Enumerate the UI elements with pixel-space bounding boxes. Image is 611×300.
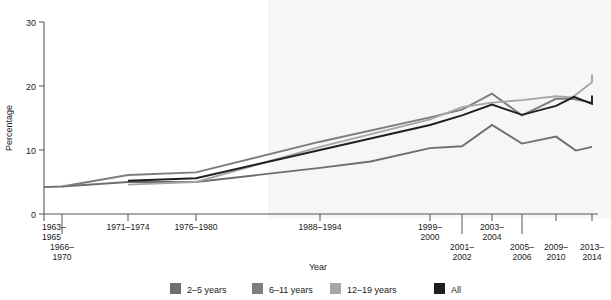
legend-label: All xyxy=(451,285,461,295)
x-tick-label: 1970 xyxy=(52,252,71,262)
x-tick-label: 2004 xyxy=(482,232,501,242)
chart-plot-tint xyxy=(268,0,611,218)
y-tick-label: 30 xyxy=(26,18,36,28)
x-tick-label: 1965 xyxy=(42,232,61,242)
x-tick-label: 1966– xyxy=(50,242,74,252)
x-tick-label: 1971–1974 xyxy=(106,222,149,232)
y-axis-title: Percentage xyxy=(4,105,14,151)
x-tick-label: 1988–1994 xyxy=(298,222,341,232)
legend-swatch xyxy=(170,283,181,294)
x-tick-label: 2003– xyxy=(480,222,504,232)
y-tick-label: 20 xyxy=(26,82,36,92)
x-tick-label: 2001– xyxy=(450,242,474,252)
line-chart-canvas: 3020100 1963–19651966–19701971–19741976–… xyxy=(0,0,611,300)
x-tick-label: 2010 xyxy=(546,252,565,262)
x-tick-label: 2000 xyxy=(420,232,439,242)
legend-label: 12–19 years xyxy=(347,285,397,295)
x-tick-label: 2009– xyxy=(544,242,568,252)
x-tick-label: 2006 xyxy=(512,252,531,262)
legend-swatch xyxy=(252,283,263,294)
x-tick-label: 2005– xyxy=(510,242,534,252)
x-tick-label: 1976–1980 xyxy=(174,222,217,232)
legend-swatch xyxy=(434,283,445,294)
x-tick-label: 1999– xyxy=(418,222,442,232)
x-tick-label: 2002 xyxy=(452,252,471,262)
legend-label: 2–5 years xyxy=(187,285,227,295)
x-tick-label: 2013– xyxy=(580,242,604,252)
chart-figure: 3020100 1963–19651966–19701971–19741976–… xyxy=(0,0,611,300)
x-axis-title: Year xyxy=(309,262,327,272)
x-tick-label: 2014 xyxy=(582,252,601,262)
y-tick-label: 0 xyxy=(31,210,36,220)
x-tick-label: 1963– xyxy=(42,222,66,232)
y-tick-label: 10 xyxy=(26,146,36,156)
legend-label: 6–11 years xyxy=(269,285,313,295)
legend-swatch xyxy=(330,283,341,294)
